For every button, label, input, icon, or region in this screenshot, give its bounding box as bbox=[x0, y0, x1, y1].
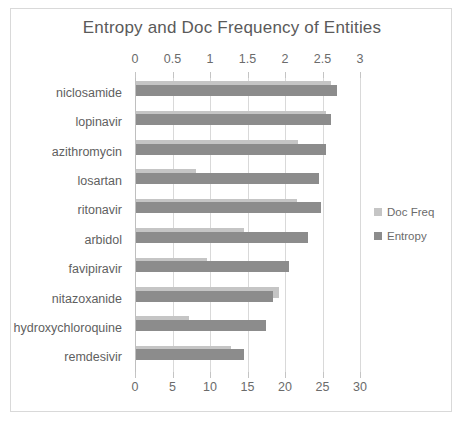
category-label: nitazoxanide bbox=[52, 292, 122, 306]
bar-entropy bbox=[136, 114, 331, 125]
category-label: azithromycin bbox=[52, 145, 122, 159]
chart-title: Entropy and Doc Frequency of Entities bbox=[0, 18, 464, 38]
bottom-axis-tick-mark bbox=[135, 372, 136, 378]
bottom-axis-tick-mark bbox=[173, 372, 174, 378]
bar-entropy bbox=[136, 349, 244, 360]
bottom-axis-tick-mark bbox=[323, 372, 324, 378]
top-axis-entropy: 00.511.522.53 bbox=[135, 52, 360, 72]
legend-item[interactable]: Entropy bbox=[374, 230, 434, 242]
legend-item[interactable]: Doc Freq bbox=[374, 206, 434, 218]
chart-container: Entropy and Doc Frequency of Entities 00… bbox=[0, 0, 464, 423]
bottom-axis-tick-label: 15 bbox=[241, 380, 255, 394]
bottom-axis-tick-label: 0 bbox=[132, 380, 139, 394]
bottom-axis-tick-label: 30 bbox=[353, 380, 367, 394]
top-axis-tick-label: 1 bbox=[207, 52, 214, 66]
bottom-axis-tick-label: 25 bbox=[316, 380, 330, 394]
bar-entropy bbox=[136, 85, 337, 96]
bottom-axis-tick-mark bbox=[285, 372, 286, 378]
top-axis-tick-label: 2 bbox=[282, 52, 289, 66]
top-axis-tick-label: 3 bbox=[357, 52, 364, 66]
legend-label: Doc Freq bbox=[387, 206, 434, 218]
bottom-axis-tick-label: 20 bbox=[278, 380, 292, 394]
legend-swatch-icon bbox=[374, 232, 382, 240]
bar-entropy bbox=[136, 261, 289, 272]
category-label: losartan bbox=[78, 174, 122, 188]
category-label: favipiravir bbox=[69, 262, 123, 276]
legend-swatch-icon bbox=[374, 208, 382, 216]
category-label: niclosamide bbox=[56, 86, 122, 100]
bottom-axis-tick-mark bbox=[360, 372, 361, 378]
gridline bbox=[360, 78, 361, 372]
bottom-axis-tick-mark bbox=[210, 372, 211, 378]
bottom-axis-tick-label: 5 bbox=[169, 380, 176, 394]
chart-legend: Doc FreqEntropy bbox=[374, 206, 434, 254]
bar-entropy bbox=[136, 320, 266, 331]
category-label: ritonavir bbox=[78, 203, 122, 217]
bar-entropy bbox=[136, 291, 273, 302]
top-axis-tick-label: 1.5 bbox=[239, 52, 256, 66]
top-axis-tick-label: 0 bbox=[132, 52, 139, 66]
category-label: lopinavir bbox=[75, 115, 122, 129]
legend-label: Entropy bbox=[387, 230, 427, 242]
category-label: remdesivir bbox=[64, 350, 122, 364]
bar-entropy bbox=[136, 173, 319, 184]
bar-entropy bbox=[136, 232, 308, 243]
category-label: arbidol bbox=[84, 233, 122, 247]
bottom-axis-tick-label: 10 bbox=[203, 380, 217, 394]
bottom-axis-docfreq: 051015202530 bbox=[135, 378, 360, 398]
plot-area bbox=[135, 78, 360, 372]
category-axis-labels: niclosamidelopinavirazithromycinlosartan… bbox=[0, 78, 130, 372]
category-label: hydroxychloroquine bbox=[14, 321, 122, 335]
bar-entropy bbox=[136, 144, 326, 155]
bottom-axis-tick-mark bbox=[248, 372, 249, 378]
top-axis-tick-label: 2.5 bbox=[314, 52, 331, 66]
bar-entropy bbox=[136, 202, 321, 213]
top-axis-tick-label: 0.5 bbox=[164, 52, 181, 66]
